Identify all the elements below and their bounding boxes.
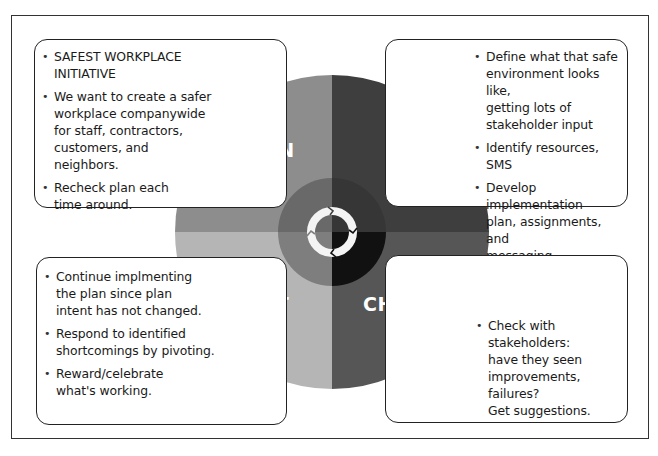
list-item: Reward/celebrate what's working. [44,365,280,399]
list-item: SAFEST WORKPLACE INITIATIVE [42,48,276,82]
check-notes-box: Check with stakeholders: have they seen … [385,255,628,423]
list-item: Check with stakeholders: have they seen … [476,317,621,419]
list-item: Develop implementation plan, assignments… [474,179,621,264]
list-item: Continue implmenting the plan since plan… [44,268,280,319]
plan-notes-list: SAFEST WORKPLACE INITIATIVE We want to c… [42,48,276,213]
check-notes-list: Check with stakeholders: have they seen … [476,317,621,419]
list-item: We want to create a safer workplace comp… [42,88,276,173]
act-notes-box: Continue implmenting the plan since plan… [36,257,287,425]
act-notes-list: Continue implmenting the plan since plan… [44,268,280,399]
list-item: Recheck plan each time around. [42,179,276,213]
list-item: Define what that safe environment looks … [474,48,621,133]
list-item: Respond to identified shortcomings by pi… [44,325,280,359]
list-item: Identify resources, SMS [474,139,621,173]
plan-notes-box: SAFEST WORKPLACE INITIATIVE We want to c… [34,39,287,208]
do-notes-box: Define what that safe environment looks … [385,39,628,207]
do-notes-list: Define what that safe environment looks … [474,48,621,264]
